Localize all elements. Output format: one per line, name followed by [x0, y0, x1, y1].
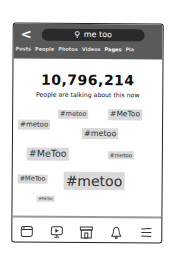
hashtag-chip[interactable]: #metoo [64, 172, 125, 191]
phone-frame: < ⚲ me too Posts People Photos Videos Pa… [11, 22, 164, 243]
tab-pages[interactable]: Pages [105, 46, 122, 52]
hashtag-chip[interactable]: #metoo [82, 128, 118, 139]
bell-icon[interactable] [110, 225, 124, 239]
tab-places[interactable]: Pla [125, 46, 134, 52]
tab-posts[interactable]: Posts [16, 45, 31, 51]
hashtag-chip[interactable]: #MeToo [108, 109, 142, 120]
people-count: 10,796,214 [13, 71, 162, 88]
hashtag-chip[interactable]: #metoo [18, 120, 50, 130]
marketplace-icon[interactable] [80, 225, 94, 239]
search-query: me too [84, 30, 112, 39]
hashtag-chip[interactable]: #MeToo [18, 175, 48, 185]
menu-icon[interactable] [139, 225, 153, 239]
search-bar[interactable]: ⚲ me too [42, 29, 145, 42]
news-feed-icon[interactable] [20, 225, 34, 239]
video-icon[interactable] [50, 225, 64, 239]
hashtag-chip[interactable]: #metoo [108, 151, 134, 159]
tab-videos[interactable]: Videos [82, 46, 101, 52]
bottom-nav [12, 215, 161, 243]
filter-tabs: Posts People Photos Videos Pages Pla [16, 45, 164, 52]
count-subtitle: People are talking about this now [13, 90, 162, 98]
hashtag-chip[interactable]: #metoo [58, 110, 88, 120]
back-button[interactable]: < [21, 28, 32, 42]
search-icon: ⚲ [74, 30, 80, 39]
tab-photos[interactable]: Photos [58, 46, 78, 52]
app-header: < ⚲ me too Posts People Photos Videos Pa… [14, 23, 163, 59]
hashtag-chip[interactable]: #MeToo [37, 196, 55, 202]
tab-people[interactable]: People [35, 46, 54, 52]
hashtag-chip[interactable]: #MeToo [27, 148, 69, 161]
